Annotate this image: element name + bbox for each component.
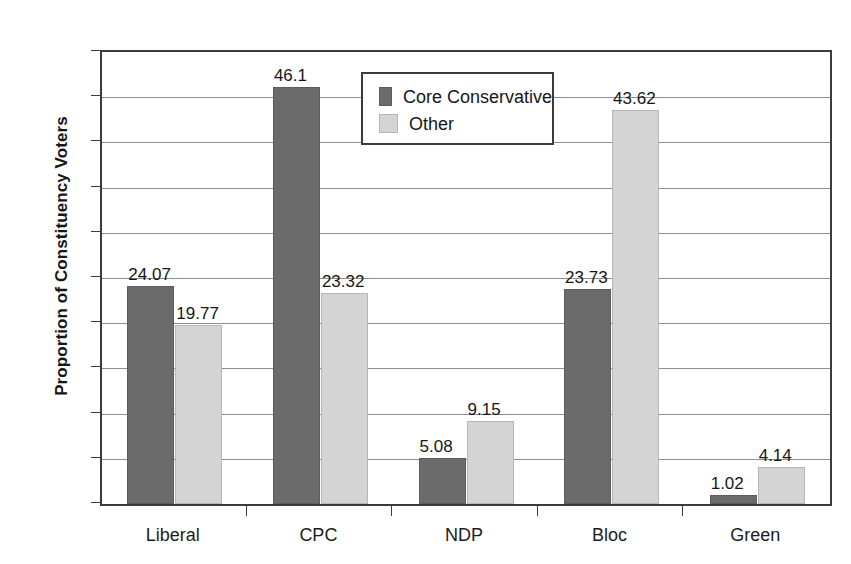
legend-item-other: Other <box>379 110 552 137</box>
x-axis-tick-mark <box>246 504 247 516</box>
y-axis-title: Proportion of Constituency Voters <box>52 46 72 466</box>
y-axis-tick-mark <box>91 457 100 458</box>
y-axis-tick-mark <box>91 321 100 322</box>
x-axis-category-ndp: NDP <box>391 526 537 544</box>
x-axis-category-bloc: Bloc <box>537 526 683 544</box>
x-axis-category-green: Green <box>682 526 828 544</box>
x-axis-category-liberal: Liberal <box>100 526 246 544</box>
bar-value-label: 4.14 <box>759 447 792 464</box>
legend-label-core-conservative: Core Conservative <box>403 88 552 106</box>
bar-chart-figure: Proportion of Constituency Voters 051015… <box>0 0 851 564</box>
y-axis-tick-mark <box>91 502 100 503</box>
bar-value-label: 1.02 <box>711 475 744 492</box>
bar-bloc-core-conservative <box>564 289 611 504</box>
y-axis-tick-mark <box>91 186 100 187</box>
x-axis-tick-mark <box>537 504 538 516</box>
x-axis-tick-mark <box>391 504 392 516</box>
y-axis-tick-mark <box>91 276 100 277</box>
chart-legend: Core Conservative Other <box>361 72 554 145</box>
gridline <box>102 188 830 189</box>
gridline <box>102 233 830 234</box>
bar-cpc-core-conservative <box>273 87 320 504</box>
legend-swatch-core-conservative <box>379 87 392 106</box>
x-axis-tick-mark <box>682 504 683 516</box>
bar-green-core-conservative <box>710 495 757 504</box>
y-axis-tick-mark <box>91 366 100 367</box>
bar-value-label: 46.1 <box>274 67 307 84</box>
bar-value-label: 9.15 <box>468 401 501 418</box>
x-axis-category-cpc: CPC <box>246 526 392 544</box>
bar-value-label: 24.07 <box>128 266 171 283</box>
y-axis-tick-mark <box>91 140 100 141</box>
legend-swatch-other <box>379 114 398 133</box>
y-axis-tick-mark <box>91 50 100 51</box>
bar-bloc-other <box>612 110 659 504</box>
bar-value-label: 43.62 <box>613 90 656 107</box>
legend-item-core-conservative: Core Conservative <box>379 83 552 110</box>
bar-ndp-core-conservative <box>419 458 466 504</box>
gridline <box>102 278 830 279</box>
y-axis-tick-mark <box>91 231 100 232</box>
bar-cpc-other <box>321 293 368 504</box>
bar-value-label: 23.73 <box>565 269 608 286</box>
y-axis-tick-mark <box>91 95 100 96</box>
bar-green-other <box>758 467 805 504</box>
bar-value-label: 5.08 <box>420 438 453 455</box>
legend-label-other: Other <box>409 115 454 133</box>
gridline <box>102 323 830 324</box>
y-axis-tick-mark <box>91 412 100 413</box>
bar-value-label: 23.32 <box>322 273 365 290</box>
bar-value-label: 19.77 <box>176 305 219 322</box>
bar-liberal-other <box>175 325 222 504</box>
bar-liberal-core-conservative <box>127 286 174 504</box>
plot-area: 24.0719.7746.123.325.089.1523.7343.621.0… <box>100 50 832 506</box>
bar-ndp-other <box>467 421 514 504</box>
